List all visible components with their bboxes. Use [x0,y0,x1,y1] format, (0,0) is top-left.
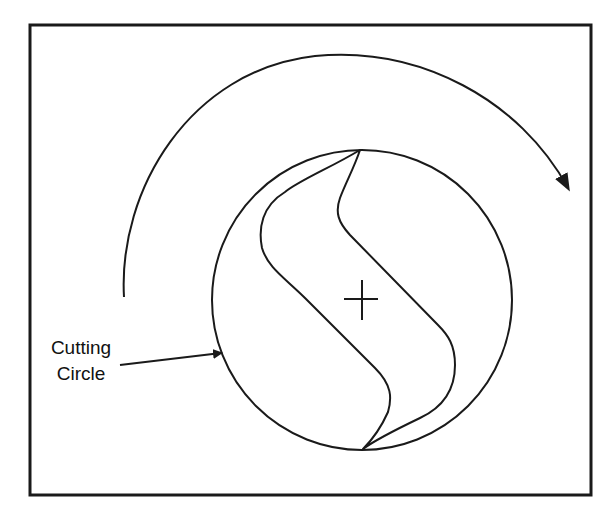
diagram-canvas [0,0,615,518]
cutting-circle-label-line2: Circle [40,362,122,385]
cutting-circle-diagram: Cutting Circle [0,0,615,518]
center-cross-icon [344,280,378,320]
label-leader-arrow-icon [120,353,221,365]
rotation-arrow-icon [124,55,568,297]
cutting-circle-label-line1: Cutting [40,336,122,359]
